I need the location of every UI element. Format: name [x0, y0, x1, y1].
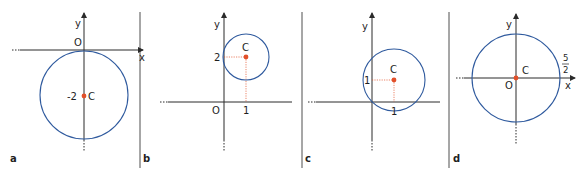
x-axis-label: x: [139, 52, 145, 63]
panel-label: a: [10, 153, 17, 164]
center-label: C: [390, 64, 397, 75]
y-axis-label: y: [214, 19, 220, 30]
center-label: C: [242, 42, 249, 53]
panel-label: c: [305, 153, 311, 164]
origin-label: O: [74, 37, 82, 48]
panel-d: y C O x 5 2 d: [453, 14, 575, 164]
y-axis-label: y: [362, 21, 368, 32]
panel-b: y C 2 O 1 b: [143, 13, 292, 164]
circles-diagram: y O x -2 C a y C 2 O 1 b y C 1 1: [0, 0, 579, 175]
radius-label-denominator: 2: [563, 65, 568, 75]
center-point: [244, 55, 249, 60]
tick-x-label: 1: [391, 106, 397, 117]
origin-label: O: [212, 105, 220, 116]
radius-label-numerator: 5: [563, 53, 568, 63]
center-point: [514, 76, 519, 81]
panel-a: y O x -2 C a: [10, 13, 145, 164]
center-point: [82, 94, 87, 99]
tick-x-label: 1: [243, 105, 249, 116]
center-label: C: [88, 91, 95, 102]
panel-label: d: [453, 153, 460, 164]
tick-y-label: 2: [214, 52, 220, 63]
panel-c: y C 1 1 c: [305, 13, 440, 164]
y-axis-label: y: [506, 19, 512, 30]
origin-label: O: [505, 80, 513, 91]
panel-label: b: [143, 153, 150, 164]
center-coord-label: -2: [67, 91, 77, 102]
tick-y-label: 1: [364, 75, 370, 86]
x-axis-label: x: [565, 80, 571, 91]
center-point: [392, 78, 397, 83]
y-axis-label: y: [75, 18, 81, 29]
center-label: C: [522, 65, 529, 76]
